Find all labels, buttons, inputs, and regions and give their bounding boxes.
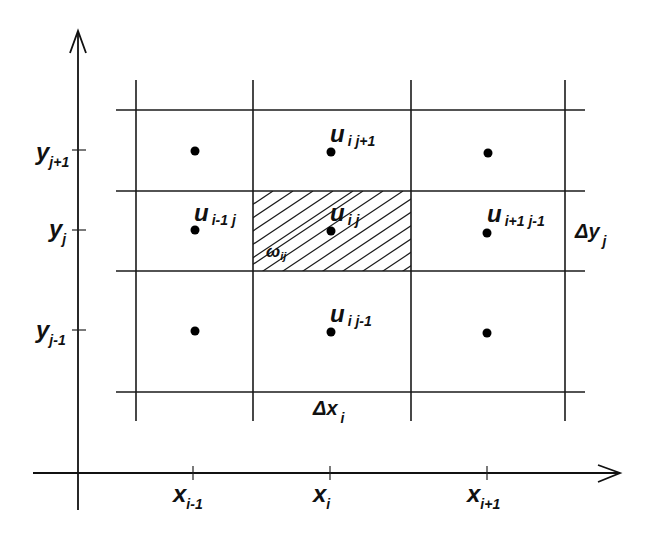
x-tick-label-ip1: xi+1 — [465, 480, 500, 512]
y-tick-label-jm1: yj-1 — [35, 316, 66, 348]
node-dot — [327, 328, 336, 337]
control-volume-label-omega-ij: ωij — [266, 242, 287, 262]
node-dot — [484, 149, 493, 158]
node-dot — [191, 226, 200, 235]
y-tick-label-jp1: yj+1 — [35, 138, 69, 170]
node-dot — [483, 229, 492, 238]
node-dot — [327, 148, 336, 157]
node-dot — [483, 329, 492, 338]
node-dot — [327, 227, 336, 236]
node-dot — [191, 147, 200, 156]
node-label-u-i-jm1: ui j-1 — [330, 300, 372, 329]
node-label-u-i-jp1: ui j+1 — [330, 120, 376, 149]
grid-lines — [116, 80, 585, 421]
spacing-label-dx-i: Δxi — [312, 397, 346, 426]
hatched-control-volume — [123, 191, 523, 291]
node-label-u-im1-j: ui-1 j — [194, 199, 237, 228]
y-tick-label-j: yj — [48, 215, 67, 247]
spacing-label-dy-j: Δyj — [574, 220, 608, 249]
finite-volume-grid-diagram: yj+1 yj yj-1 xi-1 xi xi+1 ui j+1 ui-1 j … — [0, 0, 647, 541]
node-label-u-ip1-j: ui+1 j-1 — [487, 200, 545, 229]
x-tick-label-im1: xi-1 — [171, 480, 203, 512]
y-axis-ticks — [72, 150, 86, 330]
node-dot — [191, 327, 200, 336]
x-tick-label-i: xi — [311, 480, 331, 512]
